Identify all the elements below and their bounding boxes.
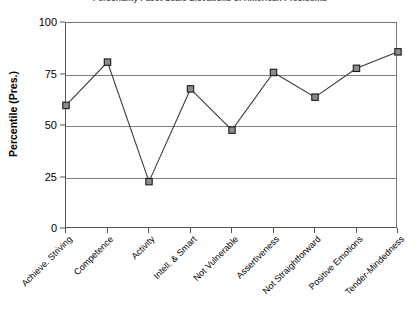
y-tick-label-100: 100 — [27, 16, 57, 28]
series-line — [66, 52, 398, 182]
data-point-1 — [104, 59, 110, 65]
data-point-7 — [353, 65, 359, 71]
series-plot — [66, 23, 398, 229]
y-tick-label-0: 0 — [27, 222, 57, 234]
data-point-6 — [312, 94, 318, 100]
data-point-5 — [270, 69, 276, 75]
data-point-8 — [395, 49, 401, 55]
x-label-0: Achieve. Striving — [20, 234, 74, 288]
x-tick-mark-5 — [273, 228, 274, 233]
x-tick-mark-1 — [107, 228, 108, 233]
x-tick-mark-6 — [314, 228, 315, 233]
y-tick-label-25: 25 — [27, 171, 57, 183]
x-label-1: Competence — [72, 234, 115, 277]
x-tick-mark-8 — [397, 228, 398, 233]
chart-title: Personality Facet Scale Elevations of Am… — [0, 0, 420, 3]
x-tick-mark-2 — [148, 228, 149, 233]
y-axis-title: Percentile (Pres.) — [7, 54, 19, 174]
x-tick-mark-4 — [231, 228, 232, 233]
data-point-2 — [146, 178, 152, 184]
x-label-2: Activity — [130, 234, 157, 261]
data-point-0 — [63, 102, 69, 108]
x-tick-mark-7 — [356, 228, 357, 233]
x-tick-mark-0 — [65, 228, 66, 233]
data-point-4 — [229, 127, 235, 133]
data-point-3 — [187, 86, 193, 92]
x-tick-mark-3 — [190, 228, 191, 233]
x-label-4: Not Vulnerable — [191, 234, 240, 283]
y-tick-label-50: 50 — [27, 119, 57, 131]
y-tick-label-75: 75 — [27, 68, 57, 80]
chart-container: Personality Facet Scale Elevations of Am… — [0, 0, 420, 312]
plot-area — [65, 22, 397, 228]
